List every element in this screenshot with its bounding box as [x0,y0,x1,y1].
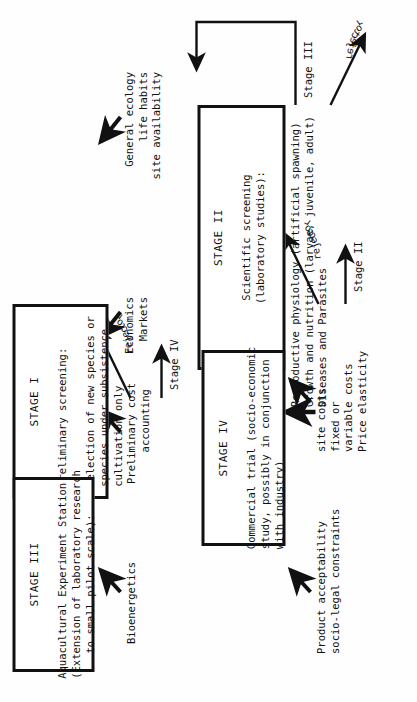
diagram-page: STAGE I Preliminary screening: Selection… [0,0,417,702]
stage-3-input-bioenergetics: Bioenergetics [124,524,138,644]
stage-3-content: STAGE III Aquacultural Experiment Statio… [15,480,91,669]
stage-3-reject-label: reject or [112,300,145,390]
stage-3-title: STAGE III [27,542,40,606]
stage-1-title: STAGE I [27,377,40,427]
stage-1-reject-label: reject or [300,206,333,296]
diagram-canvas: STAGE I Preliminary screening: Selection… [0,0,417,702]
stage-2-title: STAGE II [211,209,224,266]
stage-1-exit-label: Stage II [351,241,363,292]
arrow-input-stage4-product [290,570,310,592]
stage-4-input-product: Product acceptability socio-legal constr… [314,484,341,654]
stage-3-body: Aquacultural Experiment Station (Extensi… [54,470,96,679]
stage-1-content: STAGE I Preliminary screening: Selection… [15,307,105,496]
stage-4-content: STAGE IV Commercial trial (socio-economi… [204,353,282,543]
stage-4-title: STAGE IV [216,420,229,477]
connector-stage2-to-stage3 [196,22,295,105]
arrow-input-stage1-ecology [100,117,120,142]
stage-2-body: Scientific screening (laboratory studies… [238,171,266,304]
stage-2-reject-label: reject or [333,6,366,96]
stage-2-box[interactable]: STAGE II Scientific screening (laborator… [197,105,285,370]
stage-2-content: STAGE II Scientific screening (laborator… [200,108,282,367]
arrow-input-stage3-bioenergetics [100,570,120,592]
stage-4-box[interactable]: STAGE IV Commercial trial (socio-economi… [201,350,285,546]
stage-1-input-ecology: General ecology life habits site availab… [122,72,163,202]
stage-4-input-costs: site costs fixed or variable costs Price… [314,312,368,452]
stage-3-box[interactable]: STAGE III Aquacultural Experiment Statio… [12,477,94,672]
stage-4-body: Commercial trial (socio-economic study, … [243,347,285,549]
stage-2-exit-label: Stage III [301,41,313,98]
stage-3-exit-label: Stage IV [167,339,179,390]
